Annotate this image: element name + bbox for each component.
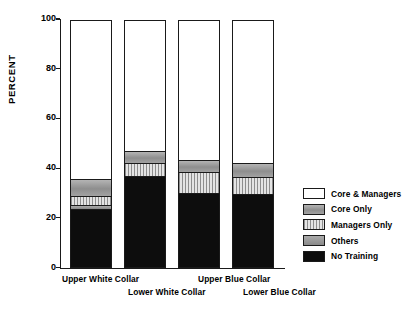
y-axis-tick-label: 60	[28, 113, 56, 123]
legend-item-managers-only: Managers Only	[303, 217, 401, 233]
y-axis-tick	[56, 18, 60, 19]
bar-segment-no-training	[125, 176, 165, 267]
y-axis-title: PERCENT	[6, 14, 17, 104]
bar-segment-core-managers	[233, 21, 273, 164]
x-axis-label-upper-blue-collar: Upper Blue Collar	[198, 274, 270, 284]
y-axis-tick-label-text: 0	[28, 263, 56, 272]
legend-item-others: Others	[303, 233, 401, 249]
legend-label: Managers Only	[331, 220, 392, 230]
legend-item-no-training: No Training	[303, 248, 401, 264]
chart-legend: Core & ManagersCore OnlyManagers OnlyOth…	[303, 186, 401, 264]
bar-segment-core-managers	[71, 21, 111, 180]
x-axis-label-upper-white-collar: Upper White Collar	[62, 274, 139, 284]
bar-segment-core-only	[233, 163, 273, 177]
legend-label: Others	[331, 236, 359, 246]
legend-swatch-core-only	[303, 204, 325, 215]
x-axis-label-lower-white-collar: Lower White Collar	[128, 287, 206, 297]
y-axis-tick	[56, 217, 60, 218]
y-axis-tick-label-text: 20	[28, 213, 56, 222]
stacked-bar	[232, 20, 274, 269]
bar-segment-no-training	[233, 194, 273, 267]
stacked-bar	[124, 20, 166, 269]
y-axis-tick	[56, 168, 60, 169]
legend-swatch-no-training	[303, 251, 325, 262]
bar-segment-managers-only	[233, 177, 273, 194]
bar-segment-core-managers	[125, 21, 165, 152]
y-axis-tick-label-text: 80	[28, 64, 56, 73]
bar-segment-managers-only	[125, 163, 165, 175]
y-axis-tick-label: 0	[28, 263, 56, 273]
y-axis-tick-label-text: 40	[28, 163, 56, 172]
y-axis-tick-label: 100	[28, 14, 56, 24]
bar-segment-no-training	[179, 193, 219, 267]
legend-swatch-others	[303, 235, 325, 246]
y-axis-tick-label: 40	[28, 163, 56, 173]
legend-label: Core Only	[331, 204, 372, 214]
legend-label: Core & Managers	[331, 189, 401, 199]
bar-segment-core-only	[71, 179, 111, 195]
legend-swatch-core-managers	[303, 188, 325, 199]
legend-item-core-only: Core Only	[303, 202, 401, 218]
y-axis-tick-label-text: 60	[28, 113, 56, 122]
bar-segment-managers-only	[71, 196, 111, 206]
bar-segment-core-only	[125, 151, 165, 163]
bar-segment-no-training	[71, 209, 111, 267]
y-axis-tick-label: 20	[28, 213, 56, 223]
stacked-bar	[70, 20, 112, 269]
legend-item-core-managers: Core & Managers	[303, 186, 401, 202]
y-axis-tick	[56, 118, 60, 119]
legend-label: No Training	[331, 251, 378, 261]
bar-segment-managers-only	[179, 172, 219, 193]
legend-swatch-managers-only	[303, 219, 325, 230]
bar-segment-core-only	[179, 160, 219, 172]
chart-container: PERCENT 020406080100 Upper White CollarL…	[0, 0, 416, 309]
x-axis-label-lower-blue-collar: Lower Blue Collar	[243, 287, 316, 297]
bar-segment-core-managers	[179, 21, 219, 160]
y-axis-line	[60, 19, 61, 268]
y-axis-tick-label-text: 100	[28, 14, 56, 23]
y-axis-tick	[56, 68, 60, 69]
stacked-bar	[178, 20, 220, 269]
y-axis-tick-label: 80	[28, 64, 56, 74]
